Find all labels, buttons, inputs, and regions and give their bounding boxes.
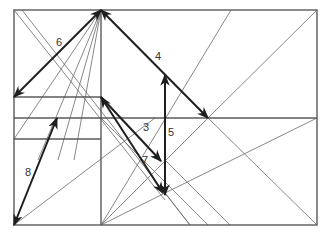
arrow-7 — [101, 97, 163, 193]
arrow-3 — [101, 97, 161, 161]
arrow-3-label: 3 — [143, 121, 149, 133]
diag-down-right-line — [208, 118, 317, 225]
diag-down-low-line — [165, 193, 190, 225]
diag-down-mid-line — [165, 160, 230, 225]
arrow-4-label: 4 — [155, 50, 161, 62]
geometric-construction-diagram: 345678 — [0, 0, 327, 236]
diag-long-right-line — [165, 118, 317, 193]
arrow-labels: 345678 — [25, 36, 174, 178]
arrow-7-label: 7 — [142, 154, 148, 166]
diagram-canvas: 345678 — [0, 0, 327, 236]
arrow-4 — [101, 10, 208, 118]
arrow-6-label: 6 — [56, 36, 62, 48]
diag-up-3-line — [208, 10, 317, 118]
arrow-8-label: 8 — [25, 166, 31, 178]
apex-fan-1-line — [14, 10, 101, 139]
arrow-5-label: 5 — [168, 126, 174, 138]
apex-fan-2-line — [38, 10, 101, 160]
